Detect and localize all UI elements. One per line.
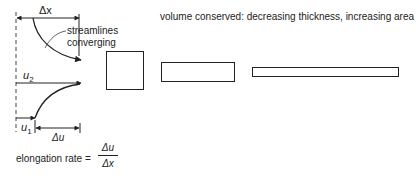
- delta-u-label: Δu: [52, 133, 64, 143]
- fraction-numerator: Δu: [102, 142, 114, 153]
- elongation-rate-fraction: Δu Δx: [98, 142, 118, 169]
- diagram-canvas: [0, 0, 416, 178]
- medium-rectangle-element: [162, 63, 235, 82]
- lower-streamline-curve: [35, 84, 80, 118]
- converging-label: converging: [67, 38, 116, 48]
- thin-rectangle-element: [253, 68, 399, 77]
- square-element: [107, 52, 144, 90]
- fraction-denominator: Δx: [102, 158, 114, 169]
- volume-conserved-note: volume conserved: decreasing thickness, …: [160, 12, 414, 22]
- u2-label: u2: [23, 70, 34, 84]
- u1-label: u1: [21, 122, 32, 136]
- delta-x-label: Δx: [39, 5, 52, 16]
- elongation-rate-label: elongation rate =: [16, 154, 91, 164]
- streamlines-label: streamlines: [67, 26, 118, 36]
- fraction-bar: [98, 155, 118, 156]
